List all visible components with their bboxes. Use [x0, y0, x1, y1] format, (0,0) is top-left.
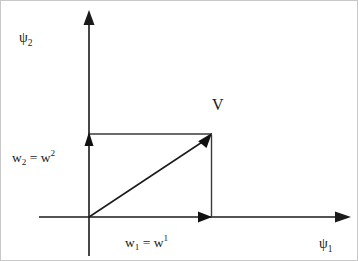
- y-component-rhs: w: [41, 150, 51, 165]
- x-axis-label-symbol: ψ: [319, 236, 328, 251]
- vector-label: V: [212, 97, 224, 113]
- y-axis-arrowhead-icon: [84, 10, 95, 25]
- y-component-equals: =: [26, 150, 40, 165]
- y-axis-label: ψ2: [19, 31, 33, 48]
- y-component-label: w2 = w2: [12, 149, 55, 167]
- x-component-lhs: w: [125, 235, 135, 250]
- y-axis-label-symbol: ψ: [19, 30, 28, 45]
- x-component-equals: =: [139, 235, 153, 250]
- vector-v-line: [89, 142, 203, 218]
- vector-diagram-figure: ψ2 ψ1 w2 = w2 w1 = w1 V: [0, 0, 358, 261]
- x-component-rhs: w: [154, 235, 164, 250]
- x-component-label: w1 = w1: [125, 234, 168, 252]
- y-component-rhs-superscript: 2: [50, 148, 55, 158]
- x-axis-label-subscript: 1: [328, 244, 333, 254]
- x-axis-label: ψ1: [319, 237, 333, 254]
- x-component-rhs-superscript: 1: [163, 233, 168, 243]
- x-component-arrowhead-icon: [198, 212, 212, 223]
- diagram-canvas: [1, 1, 358, 261]
- vector-v-arrowhead-icon: [198, 133, 212, 148]
- y-axis-label-subscript: 2: [28, 38, 33, 48]
- y-component-lhs: w: [12, 150, 22, 165]
- x-axis-arrowhead-icon: [335, 212, 351, 223]
